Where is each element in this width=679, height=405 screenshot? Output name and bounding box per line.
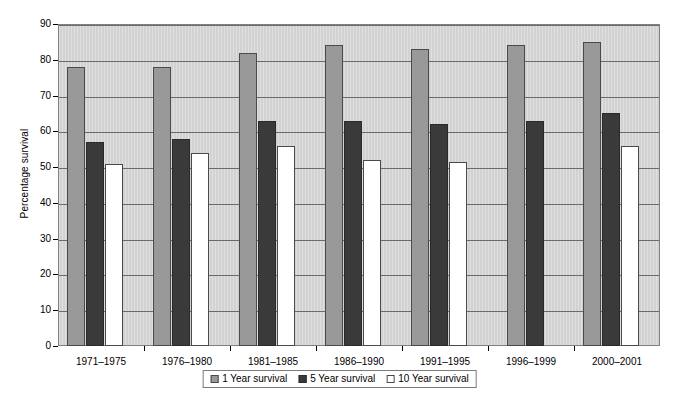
x-axis-tick — [402, 346, 403, 351]
y-axis-tick — [53, 167, 58, 168]
legend-label: 5 Year survival — [310, 373, 375, 384]
x-axis-label: 1971–1975 — [58, 356, 144, 367]
bar-1 — [507, 45, 525, 346]
bar-3 — [363, 160, 381, 346]
y-axis-title: Percentage survival — [19, 94, 30, 254]
x-axis-tick — [230, 346, 231, 351]
x-axis-label: 1986–1990 — [316, 356, 402, 367]
bar-3 — [621, 146, 639, 346]
x-axis-label: 1976–1980 — [144, 356, 230, 367]
bar-group — [316, 24, 402, 346]
bar-groups — [58, 24, 660, 346]
bar-1 — [153, 67, 171, 346]
y-axis-tick — [53, 96, 58, 97]
bar-2 — [344, 121, 362, 346]
y-axis-tick — [53, 310, 58, 311]
x-axis-label: 1991–1995 — [402, 356, 488, 367]
y-axis-label: 10 — [5, 305, 51, 315]
y-axis-tick — [53, 203, 58, 204]
chart-legend: 1 Year survival5 Year survival10 Year su… — [202, 370, 477, 388]
bar-3 — [277, 146, 295, 346]
legend-swatch-icon — [386, 375, 394, 383]
bar-2 — [258, 121, 276, 346]
bar-2 — [430, 124, 448, 346]
bar-group — [230, 24, 316, 346]
bar-2 — [172, 139, 190, 347]
bar-1 — [239, 53, 257, 346]
x-axis-tick — [488, 346, 489, 351]
legend-label: 10 Year survival — [398, 373, 469, 384]
bar-2 — [526, 121, 544, 346]
x-axis-label: 1996–1999 — [488, 356, 574, 367]
y-axis-label: 50 — [5, 162, 51, 172]
y-axis-tick — [53, 60, 58, 61]
x-axis-label: 2000–2001 — [574, 356, 660, 367]
y-axis-tick — [53, 239, 58, 240]
bar-group — [402, 24, 488, 346]
x-axis-label: 1981–1985 — [230, 356, 316, 367]
y-axis-label: 0 — [5, 341, 51, 351]
bar-3 — [449, 162, 467, 346]
y-axis-tick — [53, 274, 58, 275]
bar-group — [574, 24, 660, 346]
legend-item: 10 Year survival — [386, 373, 469, 384]
x-axis-tick — [144, 346, 145, 351]
bar-chart: Percentage survival 0102030405060708090 … — [0, 0, 679, 405]
y-axis-label: 60 — [5, 126, 51, 136]
bar-group — [144, 24, 230, 346]
legend-label: 1 Year survival — [222, 373, 287, 384]
y-axis-label: 20 — [5, 269, 51, 279]
y-axis-tick — [53, 24, 58, 25]
bar-2 — [602, 113, 620, 346]
bar-1 — [67, 67, 85, 346]
y-axis-label: 90 — [5, 19, 51, 29]
legend-item: 1 Year survival — [210, 373, 287, 384]
bar-3 — [191, 153, 209, 346]
legend-swatch-icon — [298, 375, 306, 383]
y-axis-label: 80 — [5, 55, 51, 65]
y-axis-label: 30 — [5, 234, 51, 244]
y-axis-tick — [53, 346, 58, 347]
x-axis-tick — [574, 346, 575, 351]
bar-group — [488, 24, 574, 346]
y-axis-tick — [53, 131, 58, 132]
bar-1 — [411, 49, 429, 346]
bar-2 — [86, 142, 104, 346]
bar-group — [58, 24, 144, 346]
bar-1 — [583, 42, 601, 346]
x-axis-tick — [316, 346, 317, 351]
bar-3 — [105, 164, 123, 346]
legend-swatch-icon — [210, 375, 218, 383]
bar-1 — [325, 45, 343, 346]
y-axis-label: 40 — [5, 198, 51, 208]
legend-item: 5 Year survival — [298, 373, 375, 384]
y-axis-label: 70 — [5, 91, 51, 101]
